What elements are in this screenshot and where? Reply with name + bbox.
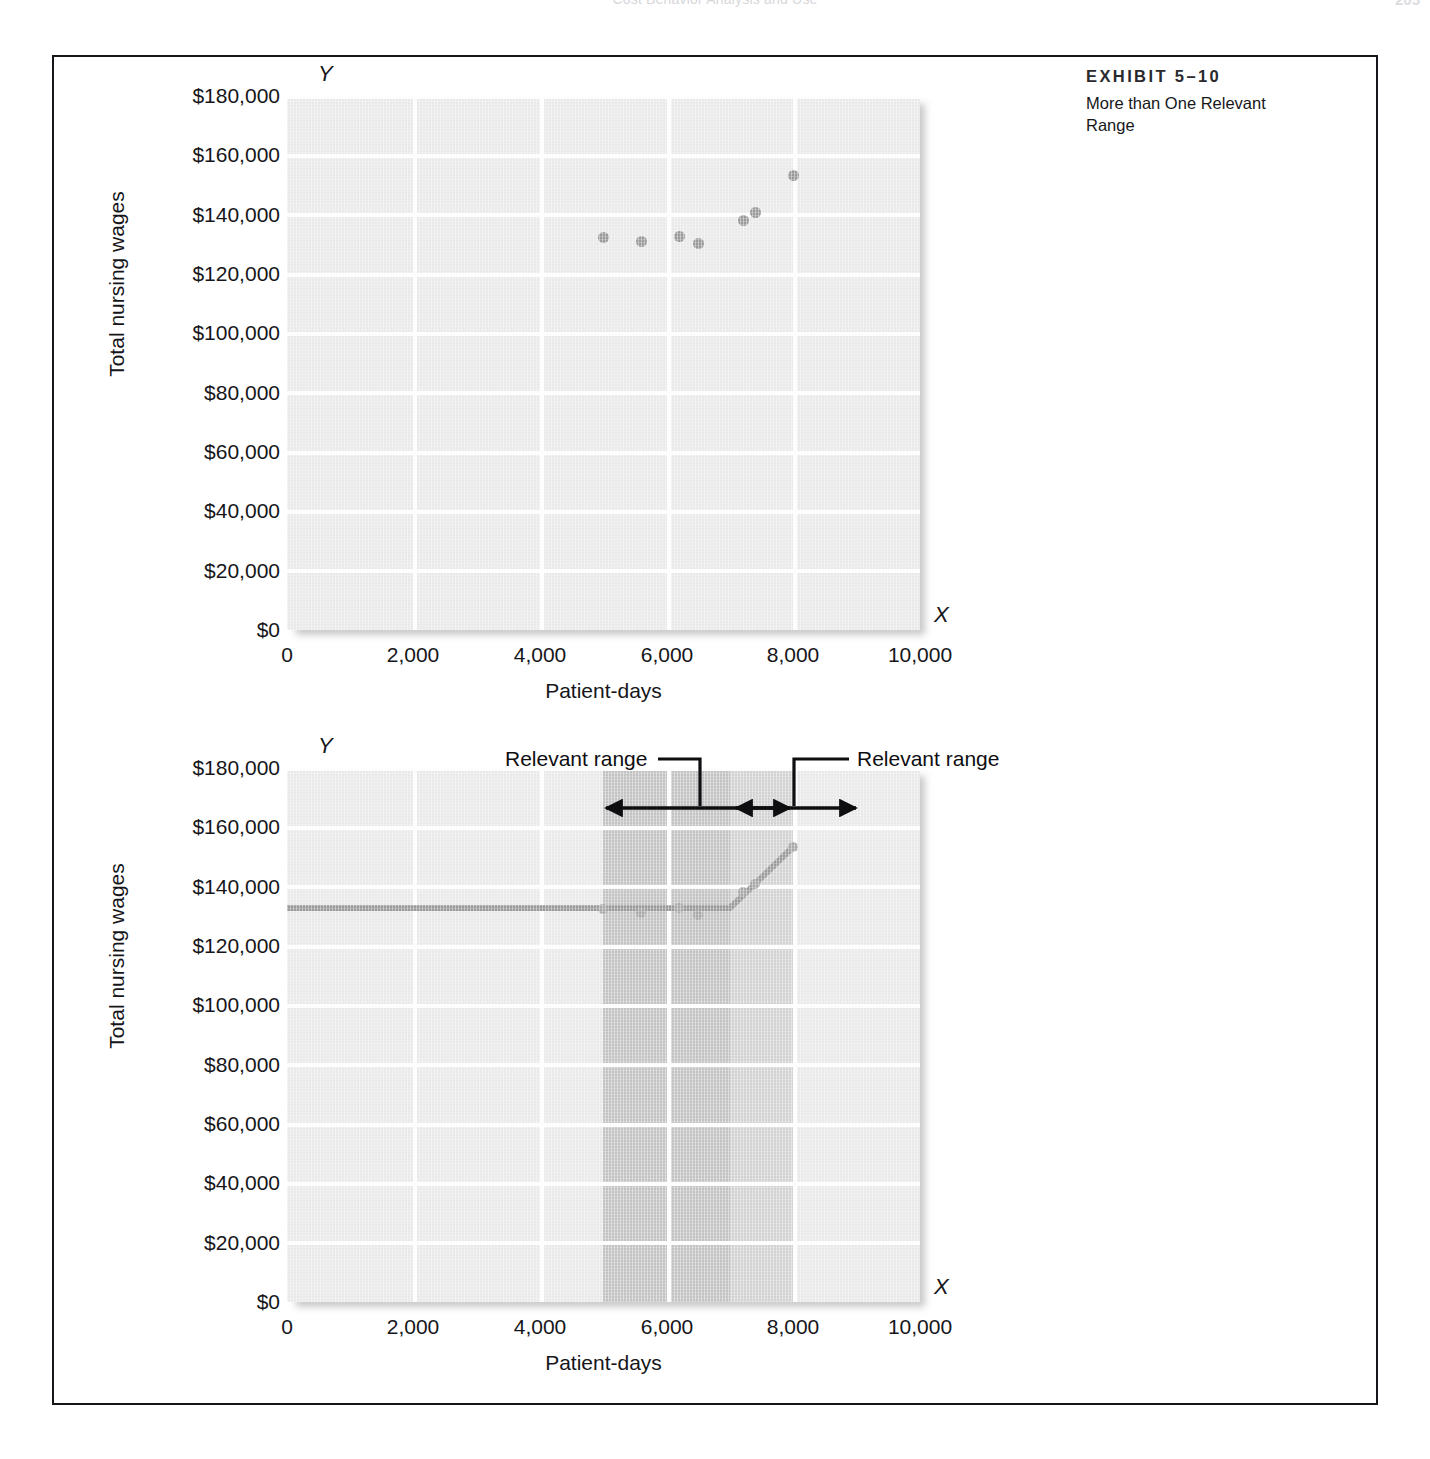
- chart1-gridline-y-20000: [287, 569, 920, 573]
- chart1-data-point: [788, 170, 799, 181]
- chart2-y-tick-60000: $60,000: [130, 1112, 280, 1136]
- chart2-x-axis-letter: X: [934, 1274, 949, 1300]
- chart1-gridline-y-100000: [287, 332, 920, 336]
- chart2-y-tick-160000: $160,000: [130, 815, 280, 839]
- page-number: 205: [1395, 0, 1420, 8]
- exhibit-caption: EXHIBIT 5–10 More than One Relevant Rang…: [1086, 67, 1356, 137]
- chart1-y-ticks: $180,000 $160,000 $140,000 $120,000 $100…: [124, 95, 280, 630]
- chart1-y-axis-letter: Y: [318, 61, 333, 87]
- chart1-gridline-y-40000: [287, 510, 920, 514]
- chart1-gridline-y-180000: [287, 95, 920, 99]
- chart1-y-tick-0: $0: [130, 618, 280, 642]
- chart2-data-point: [636, 908, 646, 918]
- chart2-x-tick-2000: 2,000: [348, 1315, 478, 1339]
- chart2-x-tick-6000: 6,000: [602, 1315, 732, 1339]
- exhibit-description: More than One Relevant Range: [1086, 93, 1286, 137]
- chart2-y-axis-letter: Y: [318, 733, 333, 759]
- chart2-x-tick-8000: 8,000: [728, 1315, 858, 1339]
- chart2-y-tick-100000: $100,000: [130, 993, 280, 1017]
- chart2-y-ticks: $180,000 $160,000 $140,000 $120,000 $100…: [124, 767, 280, 1302]
- chart1-data-point: [738, 215, 749, 226]
- chart1-x-ticks: 0 2,000 4,000 6,000 8,000 10,000: [287, 643, 920, 673]
- chart1-data-point: [693, 238, 704, 249]
- chart1-data-point: [636, 236, 647, 247]
- chart2-x-axis-title: Patient-days: [287, 1351, 920, 1375]
- chart1-data-point: [674, 231, 685, 242]
- chart1-plot-area: [287, 95, 920, 630]
- chart1-x-tick-8000: 8,000: [728, 643, 858, 667]
- page-header: Cost Behavior Analysis and Use 205: [0, 0, 1430, 26]
- chart2-y-tick-140000: $140,000: [130, 875, 280, 899]
- chart1-y-tick-20000: $20,000: [130, 559, 280, 583]
- chart1-y-tick-40000: $40,000: [130, 499, 280, 523]
- chart1-x-tick-6000: 6,000: [602, 643, 732, 667]
- exhibit-label: EXHIBIT 5–10: [1086, 67, 1356, 86]
- chart1-gridline-x-2000: [413, 95, 417, 630]
- chart2-data-point: [738, 887, 748, 897]
- chart2-x-ticks: 0 2,000 4,000 6,000 8,000 10,000: [287, 1315, 920, 1345]
- chart1-y-tick-140000: $140,000: [130, 203, 280, 227]
- chart1-y-tick-100000: $100,000: [130, 321, 280, 345]
- chart2-y-tick-0: $0: [130, 1290, 280, 1314]
- chart2-y-tick-180000: $180,000: [130, 756, 280, 780]
- chart1-data-point: [598, 232, 609, 243]
- chart2-y-tick-20000: $20,000: [130, 1231, 280, 1255]
- chart2-y-tick-80000: $80,000: [130, 1053, 280, 1077]
- chart2-x-tick-4000: 4,000: [475, 1315, 605, 1339]
- chart1-gridline-y-120000: [287, 273, 920, 277]
- chart1-gridline-y-160000: [287, 154, 920, 158]
- chart1-y-tick-180000: $180,000: [130, 84, 280, 108]
- chart2-cost-line: [287, 767, 920, 1302]
- chart1-x-axis-title: Patient-days: [287, 679, 920, 703]
- chart1-data-point: [750, 207, 761, 218]
- chart1-x-axis-letter: X: [934, 602, 949, 628]
- chart1-y-tick-160000: $160,000: [130, 143, 280, 167]
- chart1-y-tick-80000: $80,000: [130, 381, 280, 405]
- chart2-data-point: [750, 879, 760, 889]
- chart1-y-tick-120000: $120,000: [130, 262, 280, 286]
- chart2-x-tick-10000: 10,000: [855, 1315, 985, 1339]
- chart2-x-tick-0: 0: [222, 1315, 352, 1339]
- chart1-x-tick-2000: 2,000: [348, 643, 478, 667]
- chart1-gridline-y-140000: [287, 213, 920, 217]
- chart1-gridline-x-6000: [667, 95, 671, 630]
- chart2-data-point: [788, 842, 798, 852]
- chart1-gridline-y-80000: [287, 391, 920, 395]
- chart2-y-tick-120000: $120,000: [130, 934, 280, 958]
- chart2-data-point: [598, 904, 608, 914]
- chart1-gridline-y-60000: [287, 451, 920, 455]
- exhibit-frame: EXHIBIT 5–10 More than One Relevant Rang…: [52, 55, 1378, 1405]
- chart2-y-tick-40000: $40,000: [130, 1171, 280, 1195]
- chart1-x-tick-10000: 10,000: [855, 643, 985, 667]
- chart1-y-tick-60000: $60,000: [130, 440, 280, 464]
- page-header-title: Cost Behavior Analysis and Use: [0, 0, 1430, 7]
- chart2-data-point: [693, 910, 703, 920]
- chart1-x-tick-4000: 4,000: [475, 643, 605, 667]
- chart1-gridline-x-4000: [540, 95, 544, 630]
- chart1-x-tick-0: 0: [222, 643, 352, 667]
- chart2-data-point: [674, 903, 684, 913]
- chart2-plot-area: [287, 767, 920, 1302]
